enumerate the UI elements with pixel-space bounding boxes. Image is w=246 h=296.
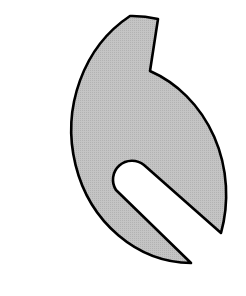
notched-slotted-disc-shape xyxy=(71,16,226,263)
diagram-canvas xyxy=(0,0,246,296)
